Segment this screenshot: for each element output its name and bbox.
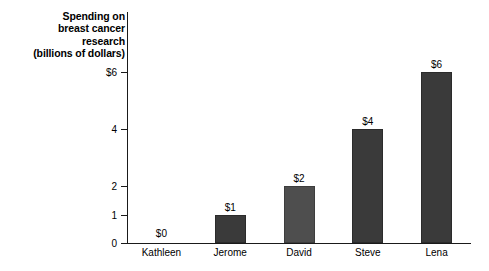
y-axis-tick-mark [121,72,127,73]
y-axis-tick-mark [121,129,127,130]
y-axis-tick-mark [121,243,127,244]
y-axis-tick-mark [121,186,127,187]
bar-value-label: $6 [431,59,442,70]
axis-title-line-1: Spending on [8,10,125,22]
x-axis-category-label-jerome: Jerome [214,247,247,258]
axis-title-line-3: research [8,35,125,47]
x-axis-category-label-kathleen: Kathleen [142,247,181,258]
bar-kathleen[interactable]: $0 [146,242,177,243]
y-axis-tick-label: 4 [90,124,121,135]
chart-axis-title: Spending on breast cancer research (bill… [8,10,125,60]
bar-david[interactable]: $2 [284,186,315,243]
bar-chart-figure: Spending on breast cancer research (bill… [0,0,489,271]
bar-value-label: $4 [362,116,373,127]
bar-value-label: $2 [293,173,304,184]
y-axis-tick-label: $6 [90,67,121,78]
x-axis-line [127,243,471,244]
bar-jerome[interactable]: $1 [215,215,246,244]
y-axis-tick-label: 0 [90,238,121,249]
bar-value-label: $0 [156,228,167,239]
y-axis-line [127,12,128,244]
y-axis-tick-mark [121,215,127,216]
bar-value-label: $1 [225,202,236,213]
axis-title-line-4: (billions of dollars) [8,47,125,59]
axis-title-line-2: breast cancer [8,22,125,34]
y-axis-tick-label: 2 [90,181,121,192]
x-axis-category-label-david: David [286,247,312,258]
y-axis-tick-label: 1 [90,209,121,220]
bar-steve[interactable]: $4 [352,129,383,243]
x-axis-category-label-lena: Lena [425,247,447,258]
bar-lena[interactable]: $6 [421,72,452,243]
x-axis-category-label-steve: Steve [355,247,381,258]
